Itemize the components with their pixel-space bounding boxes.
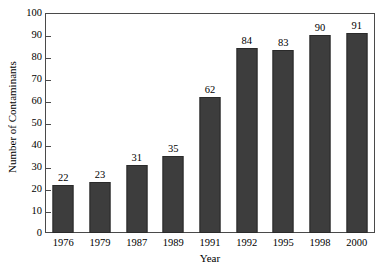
x-axis-tick-label: 1976: [53, 236, 74, 249]
x-axis-tick-label: 1989: [163, 236, 184, 249]
y-axis-tick-label: 90: [16, 30, 42, 40]
bar: [53, 185, 74, 233]
y-axis-tick-label: 50: [16, 118, 42, 128]
bar-value-label: 90: [315, 22, 326, 33]
bar: [309, 35, 330, 233]
bar-value-label: 23: [95, 169, 106, 180]
y-axis-tick-labels: 0102030405060708090100: [16, 13, 42, 233]
bar: [89, 182, 110, 233]
bar-group: 91: [338, 13, 375, 233]
bar: [273, 50, 294, 233]
bar-group: 35: [155, 13, 192, 233]
bar-value-label: 84: [241, 35, 252, 46]
bar: [126, 165, 147, 233]
bar-value-label: 22: [58, 172, 69, 183]
bar-group: 83: [265, 13, 302, 233]
y-axis-tick-label: 10: [16, 206, 42, 216]
bar-group: 22: [45, 13, 82, 233]
y-axis-tick-label: 0: [16, 228, 42, 238]
bar-group: 84: [228, 13, 265, 233]
bar-value-label: 31: [131, 152, 142, 163]
x-axis-tick-labels: 197619791987198919911992199519982000: [45, 236, 375, 250]
y-axis-tick-label: 70: [16, 74, 42, 84]
bar-value-label: 91: [351, 20, 362, 31]
x-axis-tick-label: 1992: [236, 236, 257, 249]
x-axis-tick-label: 1998: [310, 236, 331, 249]
bar-group: 23: [82, 13, 119, 233]
x-axis-tick-label: 2000: [346, 236, 367, 249]
bar-value-label: 83: [278, 37, 289, 48]
y-axis-tick-label: 60: [16, 96, 42, 106]
bars-layer: 222331356284839091: [45, 13, 375, 233]
bar: [163, 156, 184, 233]
y-axis-tick-label: 30: [16, 162, 42, 172]
bar: [199, 97, 220, 233]
bar-group: 62: [192, 13, 229, 233]
x-axis-tick-label: 1995: [273, 236, 294, 249]
x-axis-title: Year: [45, 252, 375, 265]
bar-value-label: 62: [205, 84, 216, 95]
bar-group: 90: [302, 13, 339, 233]
x-axis-tick-label: 1987: [126, 236, 147, 249]
x-axis-tick-label: 1979: [90, 236, 111, 249]
bar: [236, 48, 257, 233]
y-axis-tick-label: 100: [16, 8, 42, 18]
y-axis-tick-label: 40: [16, 140, 42, 150]
bar-group: 31: [118, 13, 155, 233]
bar-value-label: 35: [168, 143, 179, 154]
bar: [346, 33, 367, 233]
y-axis-tick-label: 80: [16, 52, 42, 62]
bar-chart: Number of Contaminants 01020304050607080…: [0, 0, 387, 274]
y-axis-tick-label: 20: [16, 184, 42, 194]
x-axis-tick-label: 1991: [200, 236, 221, 249]
